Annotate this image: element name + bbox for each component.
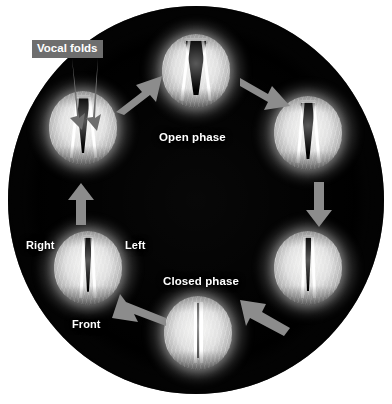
label-open-phase-text: Open phase	[159, 131, 226, 143]
label-right-text: Right	[26, 239, 55, 251]
label-right: Right	[26, 239, 55, 251]
figure-canvas: Vocal folds Open phase Closed phase Righ…	[0, 0, 392, 404]
callout-vocal-folds-label: Vocal folds	[37, 42, 98, 54]
label-open-phase: Open phase	[159, 131, 226, 143]
vocal-folds-pointer-lines	[0, 0, 392, 404]
label-front-text: Front	[72, 318, 101, 330]
label-closed-phase: Closed phase	[163, 275, 239, 287]
label-front: Front	[72, 318, 101, 330]
label-closed-phase-text: Closed phase	[163, 275, 239, 287]
label-left: Left	[125, 239, 146, 251]
label-left-text: Left	[125, 239, 146, 251]
callout-vocal-folds: Vocal folds	[32, 40, 103, 58]
